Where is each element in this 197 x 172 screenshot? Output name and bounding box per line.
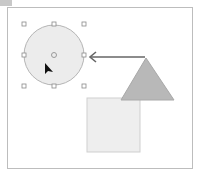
resize-handle[interactable] [52, 84, 56, 88]
canvas-scene [0, 0, 197, 172]
resize-handle[interactable] [22, 22, 26, 26]
resize-handle[interactable] [22, 53, 26, 57]
triangle-shape[interactable] [121, 58, 174, 100]
resize-handle[interactable] [22, 84, 26, 88]
resize-handle[interactable] [82, 22, 86, 26]
resize-handle[interactable] [82, 84, 86, 88]
resize-handle[interactable] [82, 53, 86, 57]
arrow-connector[interactable] [90, 52, 145, 62]
square-shape[interactable] [87, 98, 140, 152]
resize-handle[interactable] [52, 22, 56, 26]
circle-shape[interactable] [24, 25, 84, 85]
